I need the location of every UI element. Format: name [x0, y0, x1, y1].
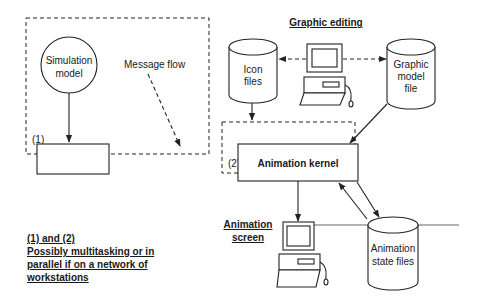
icon-files-node: Icon files [229, 39, 277, 103]
animation-kernel-label: Animation kernel [257, 158, 338, 169]
graphic-model-label-2: model [397, 71, 424, 82]
note-line-4: workstations [26, 272, 89, 283]
arrow-state-files-to-kernel [339, 183, 367, 219]
message-flow-label: Message flow [124, 59, 186, 70]
animation-screen-label-1: Animation [224, 219, 273, 230]
keyboard-icon [277, 270, 320, 287]
message-flow-arrow [148, 74, 180, 146]
animation-screen-label-2: screen [232, 232, 264, 243]
animation-state-files-node: Animation state files [368, 217, 418, 290]
diagram-canvas: (1) (2) Simulation model Animation kerne… [0, 0, 481, 306]
icon-files-label-2: files [244, 76, 262, 87]
graphic-editing-title: Graphic editing [289, 17, 362, 28]
icon-files-label-1: Icon [244, 64, 263, 75]
simulation-model-label-1: Simulation [46, 55, 93, 66]
simulation-model-node: Simulation model [41, 37, 97, 93]
graphic-editing-computer [300, 44, 353, 107]
simulator-node [37, 144, 109, 174]
simulation-model-label-2: model [55, 68, 82, 79]
keyboard-icon [300, 93, 345, 105]
note-line-3: parallel if on a network of [27, 259, 148, 270]
animation-state-label-1: Animation [371, 243, 415, 254]
graphic-model-label-1: Graphic [393, 59, 428, 70]
note-line-2: Possibly multitasking or in [27, 246, 154, 257]
animation-kernel-node: Animation kernel [238, 144, 358, 181]
arrow-kernel-to-state-files [357, 182, 379, 217]
animation-screen-computer [277, 222, 328, 287]
animation-state-label-2: state files [372, 256, 414, 267]
region-1-label: (1) [32, 134, 44, 145]
arrow-graphic-model-to-kernel [350, 104, 387, 143]
graphic-model-label-3: file [405, 83, 418, 94]
graphic-model-file-node: Graphic model file [387, 39, 435, 109]
note-line-1: (1) and (2) [27, 233, 75, 244]
